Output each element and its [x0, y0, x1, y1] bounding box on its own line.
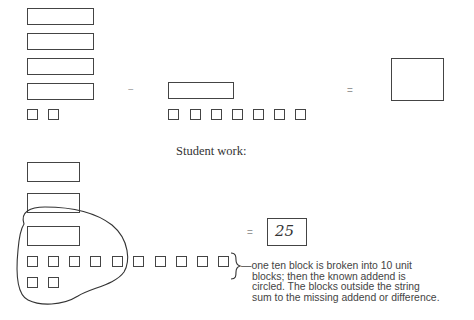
student-answer-box: 25 [267, 218, 307, 246]
note-line: —one ten block is broken into 10 unit [241, 261, 440, 272]
note-line: sum to the missing addend or difference. [241, 293, 440, 304]
brace [231, 253, 240, 279]
string-loop [17, 207, 128, 304]
explanation-note: —one ten block is broken into 10 unit bl… [241, 261, 440, 303]
equals-sign-student: = [247, 227, 253, 238]
student-answer-value: 25 [275, 222, 294, 240]
